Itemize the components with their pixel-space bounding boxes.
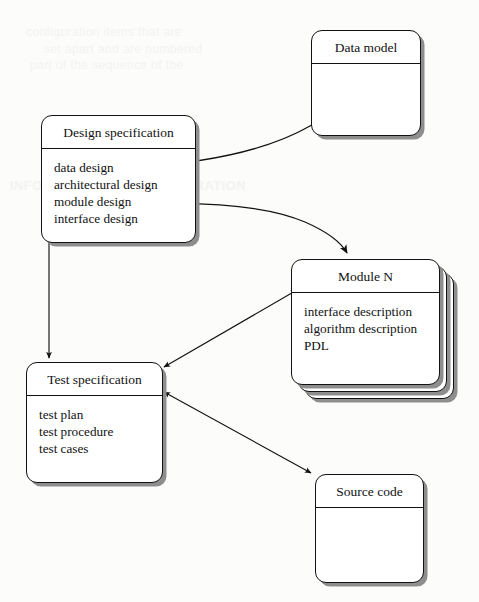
edge-test-spec-to-module-n bbox=[164, 290, 297, 367]
node-module-n-title: Module N bbox=[292, 260, 439, 293]
node-design-specification[interactable]: Design specification data design archite… bbox=[41, 115, 196, 243]
design-spec-item-data-design: data design bbox=[54, 159, 195, 176]
node-module-n-body: interface description algorithm descript… bbox=[292, 293, 439, 354]
module-n-item-pdl: PDL bbox=[304, 337, 439, 354]
node-design-specification-body: data design architectural design module … bbox=[42, 149, 195, 228]
test-spec-item-test-procedure: test procedure bbox=[39, 423, 162, 440]
module-n-item-interface-description: interface description bbox=[304, 303, 439, 320]
node-data-model[interactable]: Data model bbox=[311, 30, 421, 136]
module-n-item-algorithm-description: algorithm description bbox=[304, 320, 439, 337]
node-test-specification-title: Test specification bbox=[27, 363, 162, 396]
diagram-canvas: configuration items that are set apart a… bbox=[0, 0, 479, 602]
node-module-n[interactable]: Module N interface description algorithm… bbox=[291, 259, 440, 385]
node-design-specification-title: Design specification bbox=[42, 116, 195, 149]
node-test-specification-body: test plan test procedure test cases bbox=[27, 396, 162, 457]
node-test-specification[interactable]: Test specification test plan test proced… bbox=[26, 362, 163, 483]
node-source-code-title: Source code bbox=[316, 475, 423, 508]
design-spec-item-architectural-design: architectural design bbox=[54, 176, 195, 193]
test-spec-item-test-plan: test plan bbox=[39, 406, 162, 423]
edge-test-spec-to-source-code bbox=[164, 392, 311, 473]
design-spec-item-interface-design: interface design bbox=[54, 210, 195, 227]
test-spec-item-test-cases: test cases bbox=[39, 440, 162, 457]
node-data-model-title: Data model bbox=[312, 31, 420, 64]
design-spec-item-module-design: module design bbox=[54, 193, 195, 210]
node-source-code[interactable]: Source code bbox=[315, 474, 424, 583]
